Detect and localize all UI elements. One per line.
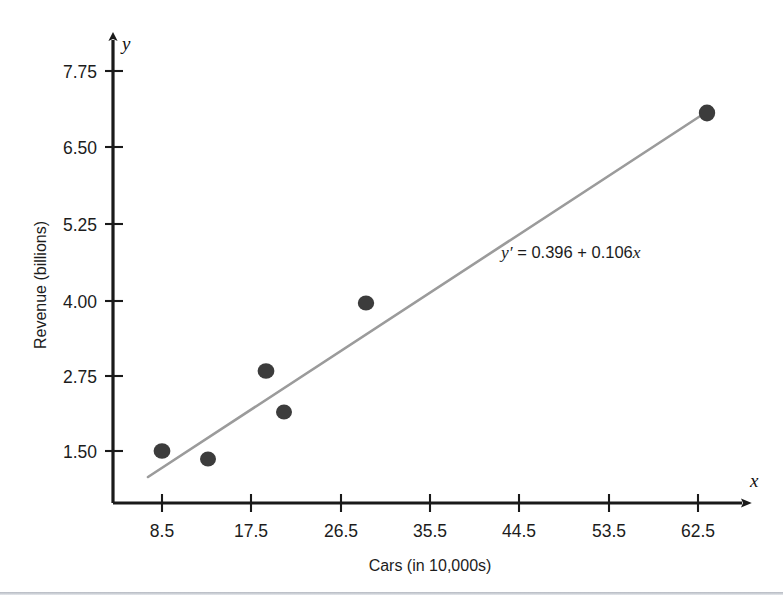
- x-axis-title: Cars (in 10,000s): [369, 557, 492, 574]
- data-point: [358, 295, 374, 310]
- page-bottom-rule: [0, 592, 783, 595]
- x-tick-labels: 8.5 17.5 26.5 35.5 44.5 53.5 62.5: [150, 521, 715, 541]
- y-tick-label: 6.50: [63, 138, 97, 158]
- data-point: [276, 404, 292, 419]
- plot-svg: y x 7.75 6.50 5.25 4.00 2.75 1.50: [0, 0, 783, 580]
- data-point: [200, 452, 216, 467]
- x-tick-label: 44.5: [502, 521, 536, 541]
- y-axis-title: Revenue (billions): [32, 221, 49, 349]
- regression-line: [148, 109, 711, 477]
- equation-x-symbol: x: [632, 242, 641, 262]
- y-tick-label: 1.50: [63, 442, 97, 462]
- x-tick-label: 53.5: [592, 521, 626, 541]
- x-tick-label: 35.5: [413, 521, 447, 541]
- y-axis-symbol: y: [120, 33, 131, 54]
- data-point: [154, 443, 171, 459]
- x-tick-label: 26.5: [324, 521, 358, 541]
- x-tick-label: 62.5: [681, 521, 715, 541]
- y-tick-label: 7.75: [63, 62, 97, 82]
- y-tick-label: 2.75: [63, 367, 97, 387]
- regression-equation-annotation: y′ = 0.396 + 0.106x: [499, 242, 641, 262]
- y-tick-label: 5.25: [63, 215, 97, 235]
- x-tick-label: 17.5: [234, 521, 268, 541]
- equation-body: = 0.396 + 0.106: [513, 243, 633, 261]
- data-point: [699, 105, 715, 122]
- y-tick-labels: 7.75 6.50 5.25 4.00 2.75 1.50: [63, 62, 97, 462]
- svg-text:y′ = 0.396 + 0.106x: y′ = 0.396 + 0.106x: [499, 242, 641, 262]
- x-axis-symbol: x: [749, 470, 759, 491]
- y-tick-label: 4.00: [63, 292, 97, 312]
- scatter-plot-figure: y x 7.75 6.50 5.25 4.00 2.75 1.50: [0, 0, 783, 580]
- data-point: [258, 363, 275, 379]
- x-tick-label: 8.5: [150, 521, 174, 541]
- data-points: [154, 105, 716, 467]
- chart-page: y x 7.75 6.50 5.25 4.00 2.75 1.50: [0, 0, 783, 603]
- equation-y-symbol: y: [499, 242, 509, 262]
